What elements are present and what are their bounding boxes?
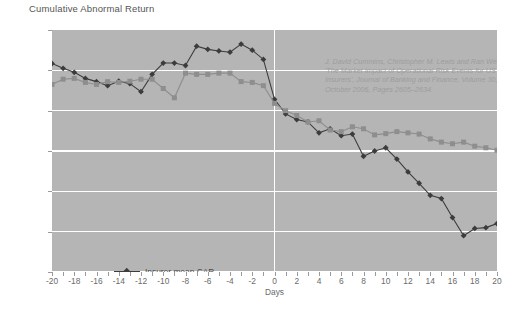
- data-point: [349, 131, 355, 137]
- data-point: [60, 65, 66, 71]
- data-point: [71, 69, 77, 75]
- x-axis-tick: [386, 272, 387, 276]
- chart-legend: Insurer mean CAR Bank mean CAR: [114, 265, 214, 272]
- x-axis-tick: [252, 272, 253, 276]
- x-axis-tick: [174, 272, 175, 276]
- x-axis-tick: [408, 272, 409, 276]
- x-axis-tick: [230, 272, 231, 276]
- x-axis-tick: [486, 272, 487, 276]
- x-axis-tick: [152, 272, 153, 276]
- data-point: [72, 76, 77, 81]
- y-axis-tick: [48, 30, 52, 31]
- data-point: [350, 124, 355, 129]
- data-point: [183, 71, 188, 76]
- data-point: [127, 79, 132, 84]
- data-point: [228, 71, 233, 76]
- x-axis-tick: [286, 272, 287, 276]
- data-point: [171, 60, 177, 66]
- data-point: [172, 95, 177, 100]
- x-axis-tick: [263, 272, 264, 276]
- citation-line-0: J. David Cummins, Christopher M. Lewis a…: [325, 57, 497, 66]
- data-point: [472, 226, 478, 232]
- x-axis-tick: [464, 272, 465, 276]
- x-axis-tick: [63, 272, 64, 276]
- data-point: [361, 153, 367, 159]
- data-point: [406, 130, 411, 135]
- x-axis-tick: [85, 272, 86, 276]
- x-axis-tick: [475, 272, 476, 276]
- data-point: [450, 141, 455, 146]
- data-point: [150, 77, 155, 82]
- data-point: [116, 80, 121, 85]
- data-point: [94, 82, 99, 87]
- x-axis-tick: [163, 272, 164, 276]
- data-point: [417, 132, 422, 137]
- legend-label-insurer: Insurer mean CAR: [145, 267, 214, 273]
- x-axis-tick: [441, 272, 442, 276]
- x-axis-tick: [397, 272, 398, 276]
- x-axis-tick: [297, 272, 298, 276]
- citation-line-2: Insurers', Journal of Banking and Financ…: [325, 75, 497, 84]
- x-axis-tick: [275, 272, 276, 276]
- x-axis-tick: [74, 272, 75, 276]
- data-point: [483, 145, 488, 150]
- data-point: [83, 80, 88, 85]
- data-point: [383, 131, 388, 136]
- x-axis-tick: [319, 272, 320, 276]
- x-axis-tick: [97, 272, 98, 276]
- data-point: [239, 79, 244, 84]
- data-point: [216, 71, 221, 76]
- data-point: [494, 221, 497, 227]
- x-axis-label: Days: [255, 287, 295, 297]
- x-axis-tick: [375, 272, 376, 276]
- data-point: [372, 132, 377, 137]
- x-axis-tick: [352, 272, 353, 276]
- y-axis-tick: [48, 232, 52, 233]
- chart-title: Cumulative Abnormal Return: [29, 3, 154, 14]
- x-axis-tick: [119, 272, 120, 276]
- x-axis-tick: [186, 272, 187, 276]
- x-axis-tick: [430, 272, 431, 276]
- data-point: [205, 72, 210, 77]
- data-point: [305, 119, 310, 124]
- x-axis-tick: [330, 272, 331, 276]
- x-axis-tick: [108, 272, 109, 276]
- x-axis-tick-label: 20: [482, 276, 512, 286]
- x-axis-tick: [52, 272, 53, 276]
- citation-line-3: October 2006, Pages 2605–2634.: [325, 85, 497, 94]
- data-point: [261, 83, 266, 88]
- data-point: [52, 61, 55, 67]
- x-axis-tick: [308, 272, 309, 276]
- data-point: [461, 140, 466, 145]
- x-axis-tick: [241, 272, 242, 276]
- citation-line-1: 'The Market Impact of Operational Risk E…: [325, 66, 497, 75]
- data-point: [105, 79, 110, 84]
- data-point: [439, 140, 444, 145]
- data-point: [450, 215, 456, 221]
- data-point: [216, 48, 222, 54]
- x-axis-tick: [130, 272, 131, 276]
- data-point: [205, 46, 211, 52]
- y-axis-tick: [48, 151, 52, 152]
- data-point: [139, 77, 144, 82]
- data-point: [317, 118, 322, 123]
- data-point: [438, 196, 444, 202]
- data-point: [472, 144, 477, 149]
- data-point: [461, 233, 467, 239]
- x-axis-tick: [497, 272, 498, 276]
- x-axis-tick: [141, 272, 142, 276]
- legend-item-insurer: Insurer mean CAR: [114, 265, 214, 272]
- x-axis-tick: [197, 272, 198, 276]
- x-axis-tick: [341, 272, 342, 276]
- x-axis-tick: [453, 272, 454, 276]
- data-point: [61, 77, 66, 82]
- data-point: [328, 128, 333, 133]
- data-point: [372, 148, 378, 154]
- citation-annotation: J. David Cummins, Christopher M. Lewis a…: [325, 57, 497, 94]
- data-point: [394, 129, 399, 134]
- y-axis-tick: [48, 191, 52, 192]
- data-point: [339, 129, 344, 134]
- data-point: [294, 113, 299, 118]
- data-point: [495, 148, 498, 153]
- data-point: [272, 101, 277, 106]
